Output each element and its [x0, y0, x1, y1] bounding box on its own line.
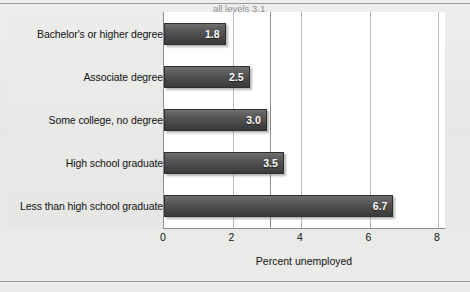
all-levels-annotation: all levels 3.1 [213, 3, 269, 14]
bottom-divider-rule [0, 281, 470, 282]
x-tick-label-4: 4 [297, 231, 303, 243]
bar[interactable]: 6.7 [164, 195, 393, 217]
bar[interactable]: 3.0 [164, 109, 267, 131]
bar-value-label: 1.8 [205, 28, 220, 40]
category-label-panel: Bachelor's or higher degreeAssociate deg… [8, 12, 163, 228]
gridline-8 [438, 12, 439, 228]
category-label: High school graduate [11, 157, 163, 169]
plot-area: 1.82.53.03.56.7 [163, 12, 445, 228]
x-axis-line [163, 228, 445, 229]
bar-value-label: 3.0 [246, 114, 261, 126]
x-axis-title: Percent unemployed [163, 255, 445, 267]
category-label: Bachelor's or higher degree [11, 28, 163, 40]
bar[interactable]: 1.8 [164, 23, 226, 45]
bar-value-label: 2.5 [229, 71, 244, 83]
category-label: Less than high school graduate [11, 200, 163, 212]
bar-value-label: 3.5 [263, 157, 278, 169]
x-tick-label-2: 2 [229, 231, 235, 243]
category-label: Associate degree [11, 71, 163, 83]
x-tick-label-6: 6 [366, 231, 372, 243]
x-tick-label-8: 8 [434, 231, 440, 243]
bar[interactable]: 3.5 [164, 152, 284, 174]
category-label: Some college, no degree [11, 114, 163, 126]
x-tick-label-0: 0 [160, 231, 166, 243]
bar-value-label: 6.7 [373, 200, 388, 212]
chart-canvas: Bachelor's or higher degreeAssociate deg… [0, 0, 470, 292]
bar[interactable]: 2.5 [164, 66, 250, 88]
